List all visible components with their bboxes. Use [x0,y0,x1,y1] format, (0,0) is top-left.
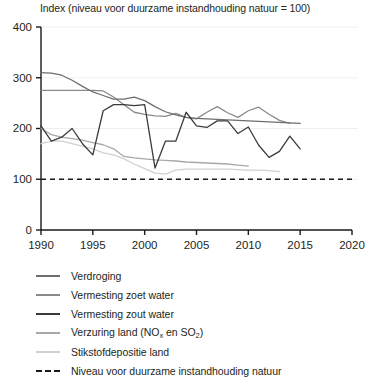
legend-item-label: Stikstofdepositie land [71,346,169,358]
legend-item[interactable]: Verzuring land (NOx en SO2) [0,323,369,342]
x-tick-label: 1990 [28,239,54,251]
x-tick-label: 2000 [132,239,158,251]
x-tick-label: 2005 [184,239,210,251]
legend-swatch-icon [36,332,60,334]
plot-area: 0100200300400199019952000200520102015202… [0,0,369,265]
legend-swatch-icon [36,370,60,372]
legend-item[interactable]: Stikstofdepositie land [0,342,369,361]
legend-item-label: Vermesting zout water [71,308,174,320]
legend-item-label: Vermesting zoet water [71,289,174,301]
legend-item-label: Niveau voor duurzame instandhouding natu… [71,365,281,377]
legend-item-label: Verdroging [71,270,121,282]
legend-item[interactable]: Verdroging [0,266,369,285]
legend-swatch-icon [36,294,60,296]
legend-item-label: Verzuring land (NOx en SO2) [71,326,203,340]
x-tick-label: 2015 [287,239,313,251]
series-line [41,90,290,123]
legend-swatch-icon [36,275,60,277]
legend-item[interactable]: Vermesting zout water [0,304,369,323]
chart-legend: VerdrogingVermesting zoet waterVermestin… [0,266,369,380]
y-tick-label: 100 [13,173,32,185]
y-tick-label: 0 [26,224,32,236]
legend-swatch-icon [36,351,60,353]
legend-item[interactable]: Vermesting zoet water [0,285,369,304]
y-tick-label: 300 [13,72,32,84]
y-tick-label: 200 [13,122,32,134]
y-tick-label: 400 [13,21,32,33]
x-tick-label: 1995 [80,239,106,251]
legend-item[interactable]: Niveau voor duurzame instandhouding natu… [0,361,369,380]
x-tick-label: 2010 [236,239,262,251]
x-tick-label: 2020 [339,239,365,251]
chart-figure: Index (niveau voor duurzame instandhoudi… [0,0,369,380]
series-line [41,141,279,174]
series-line [41,129,248,167]
legend-swatch-icon [36,313,60,315]
series-line [41,73,300,124]
